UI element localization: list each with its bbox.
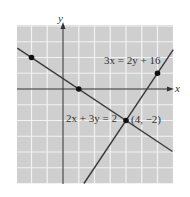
line1-label: 2x + 3y = 2: [66, 112, 117, 124]
x-axis-label: x: [174, 82, 180, 94]
plot-area: [17, 22, 174, 184]
line2-label: 3x = 2y + 16: [104, 54, 161, 66]
intersection-point: [123, 118, 129, 124]
y-axis-label: y: [57, 12, 63, 24]
intersection-label: (4, −2): [131, 113, 161, 126]
chart: y x 3x = 2y + 16 2x + 3y = 2 (4, −2): [0, 0, 190, 197]
data-point: [29, 55, 35, 61]
data-point: [76, 86, 82, 92]
data-point: [155, 70, 161, 76]
